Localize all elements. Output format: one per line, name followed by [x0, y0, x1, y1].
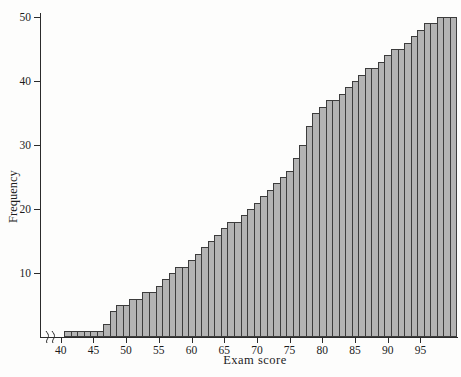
x-tick-label-95: 95	[407, 345, 433, 357]
y-tick-40	[34, 81, 40, 82]
x-tick-85	[355, 338, 356, 343]
x-tick-label-85: 85	[342, 345, 368, 357]
x-tick-90	[388, 338, 389, 343]
x-axis-line	[40, 337, 458, 338]
y-axis-line	[40, 13, 41, 338]
axis-break-icon	[43, 330, 61, 344]
x-tick-60	[192, 338, 193, 343]
x-tick-label-40: 40	[48, 345, 74, 357]
x-tick-label-50: 50	[113, 345, 139, 357]
x-axis-title: Exam score	[195, 353, 315, 368]
bar-score-100	[450, 17, 458, 337]
x-tick-70	[257, 338, 258, 343]
y-tick-30	[34, 145, 40, 146]
x-tick-45	[93, 338, 94, 343]
plot-area: 1020304050 404550556065707580859095 Freq…	[0, 0, 461, 377]
x-tick-95	[420, 338, 421, 343]
x-tick-65	[224, 338, 225, 343]
y-axis-title: Frequency	[6, 157, 21, 237]
y-tick-label-40: 40	[7, 76, 31, 88]
x-tick-55	[159, 338, 160, 343]
y-tick-10	[34, 273, 40, 274]
y-tick-50	[34, 17, 40, 18]
y-tick-label-50: 50	[7, 12, 31, 24]
y-tick-label-10: 10	[7, 268, 31, 280]
y-tick-label-30: 30	[7, 140, 31, 152]
x-tick-label-45: 45	[80, 345, 106, 357]
cumulative-frequency-histogram-figure: 1020304050 404550556065707580859095 Freq…	[0, 0, 461, 377]
x-tick-label-55: 55	[146, 345, 172, 357]
x-tick-50	[126, 338, 127, 343]
y-tick-20	[34, 209, 40, 210]
x-tick-label-90: 90	[375, 345, 401, 357]
x-tick-80	[322, 338, 323, 343]
x-tick-75	[290, 338, 291, 343]
